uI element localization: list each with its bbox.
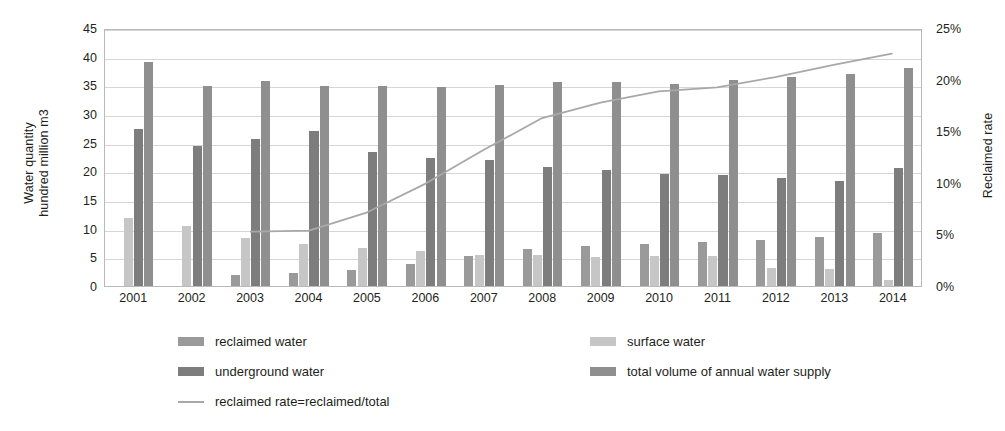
legend-label-total-volume: total volume of annual water supply [627, 364, 831, 379]
reclaimed-rate-line-layer [105, 30, 921, 286]
y-axis-left-title-line2: hundred million m3 [37, 63, 52, 263]
x-axis-tick-label-2012: 2012 [746, 291, 806, 305]
legend-swatch-icon-reclaimed-water [178, 337, 204, 346]
x-axis-tick-label-2013: 2013 [804, 291, 864, 305]
x-axis-tick-label-2004: 2004 [279, 291, 339, 305]
legend-item-underground-water: underground water [178, 364, 324, 379]
y-axis-left-title-line1: Water quantity [22, 63, 37, 263]
legend-swatch-icon-surface-water [590, 337, 616, 346]
y-axis-right-tick-label: 0% [936, 281, 982, 293]
x-axis-tick-label-2008: 2008 [512, 291, 572, 305]
y-axis-right-tick-label: 25% [936, 23, 982, 35]
legend-item-reclaimed-rate: reclaimed rate=reclaimed/total [178, 394, 390, 409]
y-axis-right-title: Reclaimed rate [981, 56, 996, 256]
reclaimed-rate-polyline [251, 54, 892, 232]
legend-item-reclaimed-water: reclaimed water [178, 334, 307, 349]
y-axis-right-tick-label: 20% [936, 75, 982, 87]
x-axis-tick-label-2005: 2005 [337, 291, 397, 305]
x-axis-tick-label-2014: 2014 [863, 291, 923, 305]
legend-swatch-icon-total-volume [590, 367, 616, 376]
x-axis-tick-label-2010: 2010 [629, 291, 689, 305]
y-axis-left-title: Water quantity hundred million m3 [22, 63, 52, 263]
y-axis-right-tick-label: 5% [936, 229, 982, 241]
y-axis-left-tick-label: 0 [57, 281, 97, 293]
y-axis-left-tick-label: 45 [57, 23, 97, 35]
y-axis-left-tick-label: 20 [57, 166, 97, 178]
reclaimed-rate-line-svg [105, 30, 921, 286]
y-axis-left-tick-label: 15 [57, 195, 97, 207]
x-axis-tick-label-2011: 2011 [688, 291, 748, 305]
x-axis-tick-label-2003: 2003 [220, 291, 280, 305]
legend-label-reclaimed-water: reclaimed water [215, 334, 307, 349]
legend-line-icon-reclaimed-rate [178, 397, 204, 406]
water-supply-chart: Water quantity hundred million m3 Reclai… [0, 0, 1005, 431]
y-axis-left-tick-label: 35 [57, 80, 97, 92]
x-axis-tick-label-2009: 2009 [571, 291, 631, 305]
x-axis-tick-label-2006: 2006 [395, 291, 455, 305]
plot-area [104, 29, 922, 287]
legend-label-underground-water: underground water [215, 364, 324, 379]
legend-item-total-volume: total volume of annual water supply [590, 364, 831, 379]
y-axis-left-tick-label: 30 [57, 109, 97, 121]
legend-swatch-icon-underground-water [178, 367, 204, 376]
legend-label-reclaimed-rate: reclaimed rate=reclaimed/total [215, 394, 390, 409]
y-axis-right-tick-label: 10% [936, 178, 982, 190]
legend-item-surface-water: surface water [590, 334, 705, 349]
y-axis-left-tick-label: 5 [57, 252, 97, 264]
y-axis-left-tick-label: 40 [57, 52, 97, 64]
x-axis-tick-label-2002: 2002 [162, 291, 222, 305]
y-axis-left-tick-label: 25 [57, 138, 97, 150]
y-axis-right-tick-label: 15% [936, 126, 982, 138]
x-axis-tick-label-2007: 2007 [454, 291, 514, 305]
y-axis-left-tick-label: 10 [57, 224, 97, 236]
x-axis-tick-label-2001: 2001 [103, 291, 163, 305]
legend-label-surface-water: surface water [627, 334, 705, 349]
chart-legend: reclaimed water underground water reclai… [0, 326, 1005, 426]
